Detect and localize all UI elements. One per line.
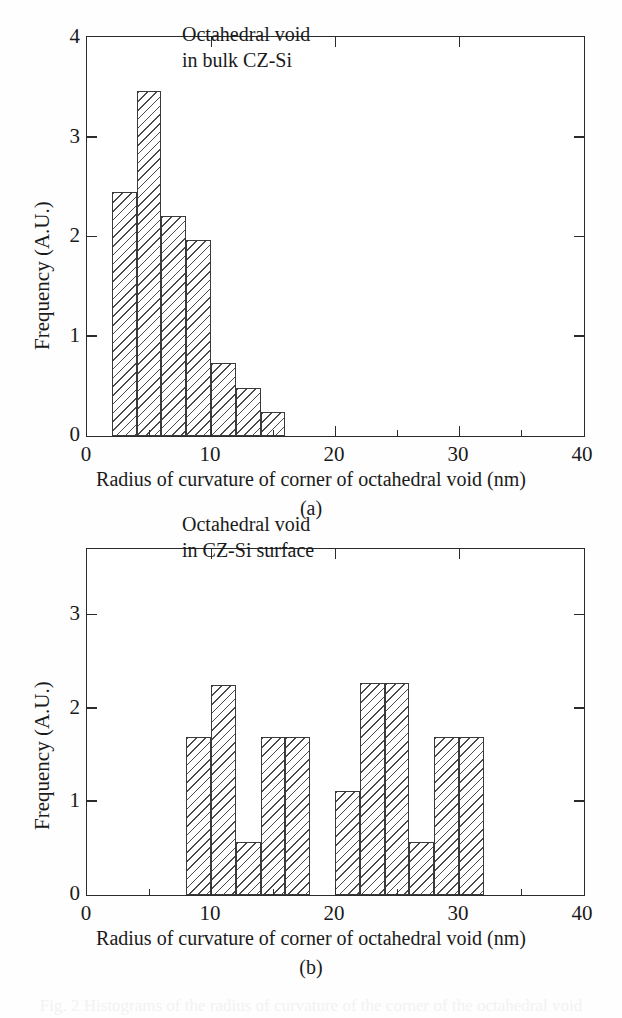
y-axis-tick [574, 707, 584, 708]
y-axis-tick-label: 2 [58, 225, 80, 246]
plot-area-a [86, 36, 585, 437]
histogram-bar [186, 737, 211, 896]
x-axis-tick [335, 426, 336, 436]
x-axis-tick-label: 0 [81, 444, 92, 465]
y-axis-tick [574, 800, 584, 801]
x-axis-minor-tick [273, 430, 274, 436]
histogram-bar [360, 683, 385, 895]
histogram-bar [409, 842, 434, 895]
plot-inner-a [87, 37, 584, 436]
x-axis-tick [459, 885, 460, 895]
histogram-bar [236, 388, 261, 436]
x-axis-minor-tick [273, 889, 274, 895]
x-axis-tick [459, 426, 460, 436]
y-axis-tick [574, 136, 584, 137]
y-axis-tick-label: 2 [58, 696, 80, 717]
y-axis-tick [574, 236, 584, 237]
histogram-bar [211, 363, 236, 436]
y-axis-tick [87, 800, 97, 801]
panel-letter-b: (b) [0, 956, 622, 979]
y-axis-tick-label: 0 [58, 424, 80, 445]
x-axis-tick-label: 40 [572, 903, 593, 924]
y-axis-title-b: Frequency (A.U.) [30, 681, 55, 830]
x-axis-tick-label: 40 [572, 444, 593, 465]
x-axis-minor-tick [149, 889, 150, 895]
y-axis-tick-label: 3 [58, 603, 80, 624]
plot-annotation-b: Octahedral void in CZ-Si surface [182, 512, 314, 563]
x-axis-tick [335, 885, 336, 895]
x-axis-minor-tick [397, 430, 398, 436]
panel-a: 01234 010203040 Frequency (A.U.) Radius … [0, 0, 622, 500]
histogram-bar [335, 791, 360, 895]
plot-annotation-a: Octahedral void in bulk CZ-Si [182, 22, 310, 73]
x-axis-tick-label: 10 [200, 444, 221, 465]
x-axis-minor-tick [149, 430, 150, 436]
y-axis-tick-labels-a: 01234 [58, 36, 80, 437]
x-axis-tick [459, 37, 460, 47]
x-axis-tick-label: 30 [448, 444, 469, 465]
histogram-bar [385, 683, 410, 895]
histogram-bar [261, 737, 286, 896]
y-axis-title-a: Frequency (A.U.) [30, 201, 55, 350]
x-axis-tick-label: 20 [324, 444, 345, 465]
y-axis-tick-label: 4 [58, 26, 80, 47]
histogram-bar [459, 737, 484, 896]
histogram-bar [186, 240, 211, 436]
figure-page: 01234 010203040 Frequency (A.U.) Radius … [0, 0, 622, 1018]
histogram-bar [161, 216, 186, 436]
plot-inner-b [87, 549, 584, 895]
x-axis-tick-label: 0 [81, 903, 92, 924]
histogram-bar [211, 685, 236, 895]
x-axis-tick [211, 885, 212, 895]
x-axis-tick-labels-b: 010203040 [86, 903, 585, 929]
y-axis-tick [87, 136, 97, 137]
x-axis-tick-labels-a: 010203040 [86, 444, 585, 470]
histogram-bar [137, 91, 162, 436]
y-axis-tick-label: 3 [58, 125, 80, 146]
plot-area-b [86, 548, 585, 896]
y-axis-tick-label: 1 [58, 324, 80, 345]
x-axis-tick [335, 37, 336, 47]
histogram-bar [434, 737, 459, 896]
x-axis-tick [211, 426, 212, 436]
y-axis-tick-label: 0 [58, 883, 80, 904]
x-axis-tick [459, 549, 460, 559]
y-axis-tick-labels-b: 0123 [58, 548, 80, 896]
y-axis-tick [87, 614, 97, 615]
panel-b: 0123 010203040 Frequency (A.U.) Radius o… [0, 500, 622, 1018]
x-axis-minor-tick [521, 430, 522, 436]
x-axis-tick [335, 549, 336, 559]
x-axis-tick-label: 10 [200, 903, 221, 924]
y-axis-tick-label: 1 [58, 789, 80, 810]
x-axis-tick-label: 30 [448, 903, 469, 924]
y-axis-tick [87, 236, 97, 237]
x-axis-title-a: Radius of curvature of corner of octahed… [0, 468, 622, 491]
y-axis-tick [87, 335, 97, 336]
histogram-bar [112, 192, 137, 436]
x-axis-minor-tick [521, 889, 522, 895]
y-axis-tick [87, 707, 97, 708]
caption-remnant: Fig. 2 Histograms of the radius of curva… [0, 996, 622, 1018]
histogram-bar [236, 842, 261, 895]
x-axis-minor-tick [397, 889, 398, 895]
x-axis-title-b: Radius of curvature of corner of octahed… [0, 927, 622, 950]
y-axis-tick [574, 614, 584, 615]
y-axis-tick [574, 335, 584, 336]
x-axis-tick-label: 20 [324, 903, 345, 924]
histogram-bar [285, 737, 310, 896]
